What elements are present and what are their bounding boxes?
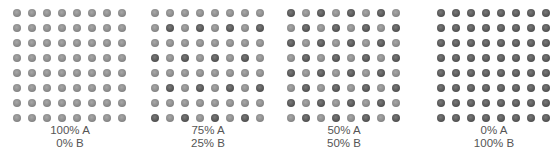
dot-a	[317, 114, 325, 122]
dot-b	[362, 114, 370, 122]
dot-a	[181, 39, 189, 47]
dot-a	[256, 99, 264, 107]
dot-a	[118, 84, 126, 92]
dot-b	[452, 54, 460, 62]
dot-a	[392, 69, 400, 77]
dot-a	[43, 39, 51, 47]
dot-b	[497, 84, 505, 92]
dot-b	[317, 9, 325, 17]
dot-a	[103, 9, 111, 17]
dot-b	[211, 54, 219, 62]
dot-b	[166, 84, 174, 92]
dot-a	[377, 114, 385, 122]
dot-a	[362, 69, 370, 77]
dot-a	[196, 9, 204, 17]
dot-b	[452, 99, 460, 107]
dot-a	[241, 84, 249, 92]
dot-a	[13, 99, 21, 107]
dot-a	[377, 54, 385, 62]
dot-b	[392, 54, 400, 62]
dot-a	[58, 24, 66, 32]
dot-a	[43, 99, 51, 107]
dot-a	[256, 54, 264, 62]
label-a-percent: 50% A	[284, 124, 404, 137]
dot-a	[28, 99, 36, 107]
dot-a	[256, 39, 264, 47]
dot-a	[181, 24, 189, 32]
dot-a	[241, 24, 249, 32]
dot-b	[287, 99, 295, 107]
dot-b	[287, 9, 295, 17]
dot-b	[512, 99, 520, 107]
dot-b	[181, 54, 189, 62]
dot-a	[317, 54, 325, 62]
dot-b	[527, 39, 535, 47]
dot-b	[497, 24, 505, 32]
dot-a	[13, 39, 21, 47]
dot-b	[467, 9, 475, 17]
dot-a	[43, 114, 51, 122]
dot-a	[118, 9, 126, 17]
dot-a	[181, 9, 189, 17]
dot-b	[542, 114, 550, 122]
dot-b	[362, 84, 370, 92]
dot-b	[452, 114, 460, 122]
dot-b	[302, 84, 310, 92]
dot-a	[226, 39, 234, 47]
dot-b	[437, 69, 445, 77]
dot-b	[482, 99, 490, 107]
dot-a	[58, 69, 66, 77]
dot-a	[211, 39, 219, 47]
dot-b	[452, 84, 460, 92]
dot-a	[287, 24, 295, 32]
dot-b	[497, 54, 505, 62]
dot-a	[302, 9, 310, 17]
dot-b	[542, 24, 550, 32]
dot-b	[332, 114, 340, 122]
dot-b	[542, 9, 550, 17]
dot-a	[211, 99, 219, 107]
dot-a	[58, 39, 66, 47]
dot-a	[43, 84, 51, 92]
dot-b	[512, 54, 520, 62]
dot-a	[103, 54, 111, 62]
dot-b	[302, 24, 310, 32]
dot-a	[43, 9, 51, 17]
dot-a	[13, 54, 21, 62]
dot-a	[103, 114, 111, 122]
dot-b	[166, 24, 174, 32]
dot-a	[287, 114, 295, 122]
dot-b	[512, 9, 520, 17]
dot-a	[347, 54, 355, 62]
dot-b	[181, 114, 189, 122]
dot-b	[467, 69, 475, 77]
dot-a	[28, 24, 36, 32]
dot-a	[103, 24, 111, 32]
dot-a	[28, 54, 36, 62]
dot-b	[497, 99, 505, 107]
dot-a	[302, 69, 310, 77]
dot-b	[512, 24, 520, 32]
dot-b	[512, 39, 520, 47]
dot-a	[362, 39, 370, 47]
dot-b	[256, 24, 264, 32]
dot-a	[88, 84, 96, 92]
dot-a	[73, 9, 81, 17]
dot-a	[226, 114, 234, 122]
dot-a	[317, 24, 325, 32]
dot-a	[28, 114, 36, 122]
dot-b	[467, 84, 475, 92]
dot-a	[392, 39, 400, 47]
dot-a	[43, 54, 51, 62]
dot-b	[527, 54, 535, 62]
dot-b	[211, 114, 219, 122]
dot-b	[512, 84, 520, 92]
label-a-percent: 75% A	[148, 124, 268, 137]
dot-a	[103, 99, 111, 107]
dot-a	[118, 99, 126, 107]
dot-a	[118, 69, 126, 77]
dot-b	[196, 84, 204, 92]
dot-b	[332, 54, 340, 62]
dot-a	[211, 9, 219, 17]
dot-a	[58, 54, 66, 62]
